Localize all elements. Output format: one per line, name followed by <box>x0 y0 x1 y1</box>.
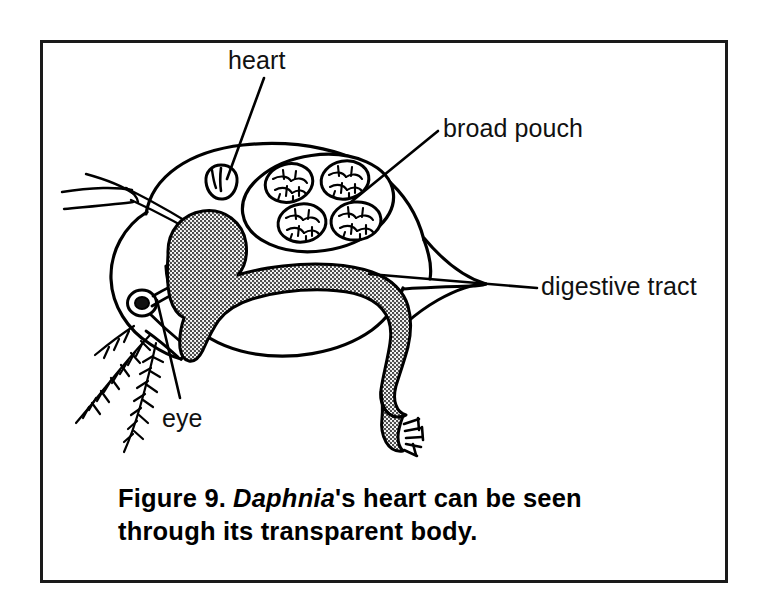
label-digestive-tract: digestive tract <box>541 272 697 301</box>
caption-prefix: Figure 9. <box>118 484 226 512</box>
label-heart: heart <box>228 46 285 75</box>
figure-page: heart broad pouch digestive tract eye Fi… <box>0 0 762 616</box>
caption-genus-name: Daphnia <box>233 484 335 512</box>
figure-caption: Figure 9.Daphnia's heart can be seen thr… <box>118 482 658 547</box>
label-broad-pouch: broad pouch <box>443 114 583 143</box>
label-eye: eye <box>162 404 203 433</box>
